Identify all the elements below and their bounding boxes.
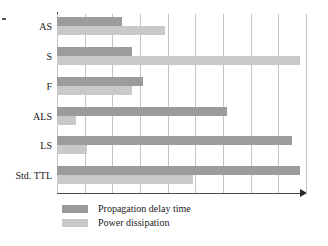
bar-power-dissipation [57, 175, 193, 184]
bar-propagation-delay [57, 17, 122, 26]
legend-label: Propagation delay time [98, 203, 191, 215]
legend-swatch-power-dissipation [62, 219, 88, 227]
legend-swatch-propagation-delay [62, 205, 88, 213]
bar-propagation-delay [57, 77, 143, 86]
category-label-ls: LS [0, 140, 52, 151]
legend-item: Power dissipation [62, 217, 312, 231]
scan-artifact-mark [2, 18, 6, 20]
bar-group [57, 47, 306, 65]
bar-power-dissipation [57, 26, 165, 35]
bar-power-dissipation [57, 56, 300, 65]
category-label-als: ALS [0, 111, 52, 122]
bar-chart: ASSFALSLSStd. TTL Propagation delay time… [0, 0, 328, 246]
bar-power-dissipation [57, 116, 76, 125]
bar-group [57, 17, 306, 35]
x-axis-line [57, 193, 302, 194]
chart-legend: Propagation delay timePower dissipation [62, 203, 312, 231]
bar-propagation-delay [57, 107, 227, 116]
category-label-f: F [0, 81, 52, 92]
bar-power-dissipation [57, 86, 132, 95]
gridline [306, 14, 307, 193]
bar-propagation-delay [57, 47, 132, 56]
category-label-s: S [0, 51, 52, 62]
bar-group [57, 107, 306, 125]
legend-item: Propagation delay time [62, 203, 312, 217]
legend-label: Power dissipation [98, 217, 169, 229]
category-label-as: AS [0, 21, 52, 32]
bar-group [57, 77, 306, 95]
bar-power-dissipation [57, 145, 87, 154]
bar-propagation-delay [57, 166, 300, 175]
plot-area [57, 14, 306, 193]
bar-group [57, 166, 306, 184]
category-label-std-ttl: Std. TTL [0, 170, 52, 181]
bar-propagation-delay [57, 136, 292, 145]
bar-group [57, 136, 306, 154]
